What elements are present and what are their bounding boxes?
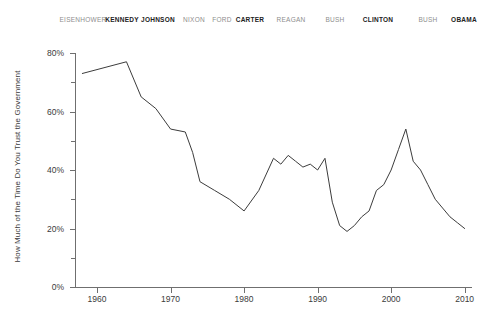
- series-canvas: [0, 0, 497, 311]
- series-line-trust-in-government: [82, 62, 464, 232]
- trust-in-government-chart: EISENHOWERKENNEDYJOHNSONNIXONFORDCARTERR…: [0, 0, 497, 311]
